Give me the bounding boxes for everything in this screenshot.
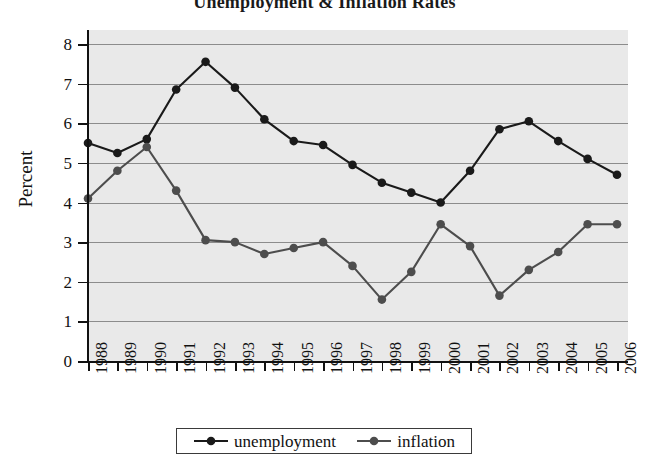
x-axis-tick <box>558 362 560 371</box>
data-point-unemployment <box>113 149 122 158</box>
y-axis-tick <box>78 163 88 165</box>
data-point-inflation <box>407 268 416 277</box>
y-axis-tick <box>78 203 88 205</box>
x-axis-tick <box>264 362 266 371</box>
y-axis-tick-label: 7 <box>46 76 72 93</box>
x-axis-tick-label: 1997 <box>359 342 375 374</box>
y-axis-tick-label: 6 <box>46 115 72 132</box>
y-axis-line <box>87 30 89 362</box>
data-point-inflation <box>172 186 181 195</box>
plot-area <box>88 30 628 362</box>
chart-figure: Unemployment & Inflation Rates Percent 0… <box>0 0 649 476</box>
y-axis-tick-label: 2 <box>46 274 72 291</box>
data-point-inflation <box>142 143 151 152</box>
data-point-inflation <box>613 220 622 229</box>
data-point-unemployment <box>407 188 416 197</box>
data-point-inflation <box>436 220 445 229</box>
y-axis-tick <box>78 321 88 323</box>
x-axis-tick <box>617 362 619 371</box>
y-axis-tick-label: 5 <box>46 155 72 172</box>
data-point-inflation <box>289 244 298 253</box>
x-axis-tick <box>529 362 531 371</box>
data-point-unemployment <box>201 58 210 67</box>
x-axis-tick <box>382 362 384 371</box>
data-point-unemployment <box>289 137 298 146</box>
y-axis-tick <box>78 44 88 46</box>
x-axis-tick-label: 2006 <box>623 342 639 374</box>
x-axis-tick <box>499 362 501 371</box>
data-point-inflation <box>201 236 210 245</box>
data-point-inflation <box>319 238 328 247</box>
chart-legend: unemploymentinflation <box>176 428 472 454</box>
y-axis-tick-label: 8 <box>46 36 72 53</box>
x-axis-tick-label: 2000 <box>447 342 463 374</box>
x-axis-tick <box>117 362 119 371</box>
data-point-inflation <box>466 242 475 251</box>
x-axis-tick <box>176 362 178 371</box>
x-axis-tick-label: 1991 <box>182 342 198 374</box>
data-point-inflation <box>260 250 269 259</box>
x-axis-tick-label: 1988 <box>94 342 110 374</box>
y-axis-tick <box>78 242 88 244</box>
legend-swatch-icon <box>193 435 229 447</box>
data-point-unemployment <box>436 198 445 207</box>
x-axis-tick-label: 1993 <box>241 342 257 374</box>
y-axis-tick <box>78 84 88 86</box>
chart-title: Unemployment & Inflation Rates <box>0 0 649 13</box>
x-axis-tick-label: 1992 <box>212 342 228 374</box>
x-axis-tick <box>88 362 90 371</box>
x-axis-tick-label: 2003 <box>535 342 551 374</box>
legend-swatch-icon <box>356 435 392 447</box>
x-axis-tick <box>411 362 413 371</box>
y-axis-tick-label: 1 <box>46 313 72 330</box>
x-axis-tick <box>235 362 237 371</box>
x-axis-tick-label: 2005 <box>594 342 610 374</box>
y-axis-title: Percent <box>15 119 37 239</box>
data-point-unemployment <box>613 170 622 179</box>
data-point-unemployment <box>378 178 387 187</box>
y-axis-tick <box>78 123 88 125</box>
x-axis-tick <box>323 362 325 371</box>
x-axis-tick-label: 2002 <box>505 342 521 374</box>
series-line-unemployment <box>88 62 617 203</box>
x-axis-tick <box>147 362 149 371</box>
x-axis-tick-label: 1989 <box>123 342 139 374</box>
data-point-inflation <box>378 295 387 304</box>
legend-label: unemployment <box>234 433 336 450</box>
x-axis-tick <box>441 362 443 371</box>
y-axis-tick <box>78 282 88 284</box>
data-point-unemployment <box>348 161 357 170</box>
x-axis-tick-label: 1998 <box>388 342 404 374</box>
x-axis-tick-label: 1994 <box>270 342 286 374</box>
data-point-unemployment <box>260 115 269 124</box>
data-point-unemployment <box>319 141 328 150</box>
x-axis-tick <box>353 362 355 371</box>
data-point-inflation <box>525 266 534 275</box>
y-axis-tick-label: 4 <box>46 195 72 212</box>
series-line-inflation <box>88 147 617 300</box>
series-container <box>88 30 628 362</box>
x-axis-tick <box>206 362 208 371</box>
data-point-inflation <box>231 238 240 247</box>
x-axis-tick <box>294 362 296 371</box>
legend-entry-inflation[interactable]: inflation <box>356 433 455 450</box>
data-point-unemployment <box>231 83 240 92</box>
y-axis-tick <box>78 361 88 363</box>
data-point-unemployment <box>495 125 504 134</box>
x-axis-tick-label: 2001 <box>476 342 492 374</box>
x-axis-tick-label: 1999 <box>417 342 433 374</box>
data-point-unemployment <box>172 85 181 94</box>
y-axis-tick-label: 3 <box>46 234 72 251</box>
legend-entry-unemployment[interactable]: unemployment <box>193 433 336 450</box>
x-axis-tick <box>470 362 472 371</box>
data-point-inflation <box>113 167 122 176</box>
y-axis-tick-label: 0 <box>46 353 72 370</box>
legend-label: inflation <box>397 433 455 450</box>
x-axis-tick-label: 1996 <box>329 342 345 374</box>
data-point-unemployment <box>583 155 592 164</box>
data-point-unemployment <box>554 137 563 146</box>
x-axis-tick-label: 1990 <box>153 342 169 374</box>
x-axis-tick <box>588 362 590 371</box>
data-point-inflation <box>495 291 504 300</box>
x-axis-tick-label: 1995 <box>300 342 316 374</box>
